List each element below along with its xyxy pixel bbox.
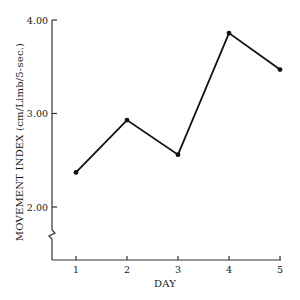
axis-break-icon [49, 230, 55, 239]
x-axis-title: DAY [154, 278, 176, 289]
data-series [74, 31, 283, 175]
y-axis-title: MOVEMENT INDEX (cm/Limb/5-sec.) [14, 43, 25, 241]
x-tick-label: 4 [226, 264, 232, 275]
y-tick-label: 2.00 [27, 202, 48, 213]
x-tick-label: 3 [175, 264, 181, 275]
data-point [125, 118, 130, 123]
x-tick-label: 1 [73, 264, 79, 275]
axes [49, 20, 281, 260]
series-line [76, 33, 280, 172]
y-tick-label: 3.00 [27, 108, 48, 119]
data-point [74, 170, 79, 175]
line-chart: 2.003.004.00 12345 DAY MOVEMENT INDEX (c… [0, 0, 300, 300]
data-point [227, 31, 232, 36]
data-point [278, 67, 283, 72]
x-tick-label: 2 [124, 264, 130, 275]
data-point [176, 152, 181, 157]
chart-canvas: 2.003.004.00 12345 DAY MOVEMENT INDEX (c… [0, 0, 300, 300]
x-axis-ticks: 12345 [73, 256, 283, 275]
y-tick-label: 4.00 [27, 15, 48, 26]
x-tick-label: 5 [277, 264, 283, 275]
